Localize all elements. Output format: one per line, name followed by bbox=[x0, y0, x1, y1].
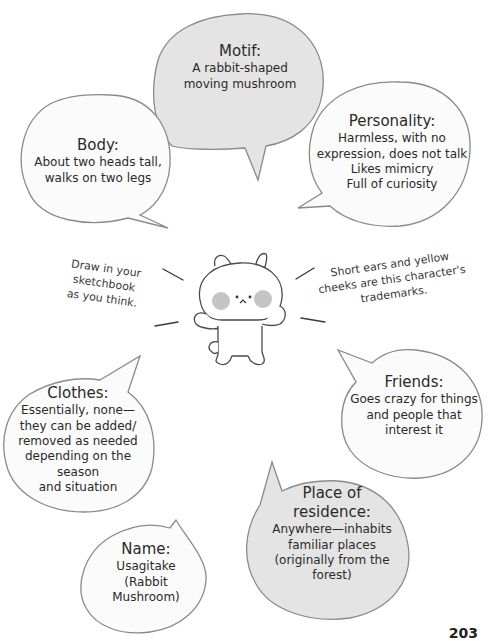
motif-text: Motif: A rabbit-shaped moving mushroom bbox=[170, 42, 310, 92]
residence-text: Place of residence: Anywhere—inhabits fa… bbox=[262, 484, 402, 584]
page-number: 203 bbox=[449, 625, 478, 641]
clothes-text: Clothes: Essentially, none— they can be … bbox=[2, 384, 154, 495]
right-cheek bbox=[254, 290, 272, 308]
residence-title: Place of residence: bbox=[262, 484, 402, 522]
friends-text: Friends: Goes crazy for things and peopl… bbox=[346, 373, 482, 438]
motif-bubble bbox=[154, 14, 324, 180]
name-text: Name: Usagitake (Rabbit Mushroom) bbox=[90, 540, 202, 605]
body-text: Body: About two heads tall, walks on two… bbox=[28, 136, 168, 186]
rabbit-mushroom-character bbox=[194, 253, 285, 364]
personality-title: Personality: bbox=[312, 112, 472, 131]
left-cheek bbox=[212, 292, 230, 310]
personality-text: Personality: Harmless, with no expressio… bbox=[312, 112, 472, 193]
friends-title: Friends: bbox=[346, 373, 482, 392]
clothes-title: Clothes: bbox=[2, 384, 154, 403]
body-title: Body: bbox=[28, 136, 168, 155]
motif-title: Motif: bbox=[170, 42, 310, 61]
right-eye bbox=[249, 296, 252, 299]
left-eye bbox=[236, 296, 239, 299]
name-title: Name: bbox=[90, 540, 202, 559]
